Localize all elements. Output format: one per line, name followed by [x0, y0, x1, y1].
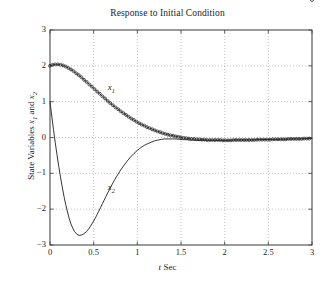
x-axis-label-rest: Sec [161, 262, 176, 272]
y-tick-label: −2 [30, 203, 46, 213]
x-tick-label: 2 [213, 247, 237, 257]
chart-title: Response to Initial Condition [0, 8, 335, 18]
y-tick-label: −1 [30, 167, 46, 177]
x-tick-label: 0.5 [82, 247, 106, 257]
y-tick-label: 2 [30, 60, 46, 70]
y-tick-label: −3 [30, 239, 46, 249]
y-axis-label-x1: x1 [26, 117, 36, 124]
x-tick-label: 3 [300, 247, 324, 257]
series-label-x1: x1 [108, 82, 115, 94]
plot-area [0, 0, 335, 282]
figure-canvas: Response to Initial Condition State Vari… [0, 0, 335, 282]
x-tick-label: 1 [125, 247, 149, 257]
y-tick-label: 0 [30, 132, 46, 142]
x-axis-label: t Sec [0, 262, 335, 272]
x-tick-label: 2.5 [256, 247, 280, 257]
x-tick-label: 1.5 [169, 247, 193, 257]
y-tick-label: 3 [30, 24, 46, 34]
series-label-x2: x2 [108, 182, 115, 194]
y-tick-label: 1 [30, 96, 46, 106]
